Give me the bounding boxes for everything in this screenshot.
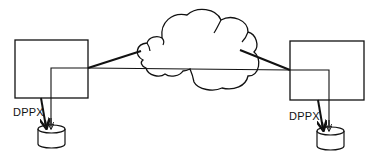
left-dppx-label: DPPX — [13, 106, 44, 118]
right-dppx-label: DPPX — [289, 110, 320, 122]
diagram-canvas — [0, 0, 379, 160]
right-storage-cylinder — [317, 127, 344, 150]
left-cloud-link — [88, 51, 141, 68]
